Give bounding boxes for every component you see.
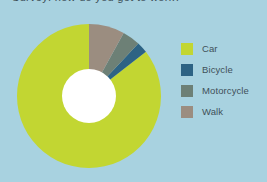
chart-legend: CarBicycleMotorcycleWalk (181, 38, 265, 122)
legend-item-car[interactable]: Car (181, 38, 265, 59)
donut-chart-figure: Survey: how do you get to work? CarBicyc… (0, 0, 267, 182)
legend-item-bicycle[interactable]: Bicycle (181, 59, 265, 80)
legend-swatch-car (181, 43, 193, 55)
legend-label-motorcycle: Motorcycle (202, 85, 249, 97)
legend-label-car: Car (202, 43, 218, 55)
donut-center-hole (62, 69, 116, 123)
donut-svg (14, 22, 164, 172)
legend-item-motorcycle[interactable]: Motorcycle (181, 80, 265, 101)
legend-swatch-walk (181, 106, 193, 118)
chart-title-text: Survey: how do you get to work? (12, 0, 181, 3)
legend-swatch-motorcycle (181, 85, 193, 97)
legend-item-walk[interactable]: Walk (181, 101, 265, 122)
donut-plot-area (14, 22, 164, 172)
chart-title-clipped: Survey: how do you get to work? (0, 0, 267, 7)
legend-label-bicycle: Bicycle (202, 64, 233, 76)
legend-label-walk: Walk (202, 106, 223, 118)
legend-swatch-bicycle (181, 64, 193, 76)
